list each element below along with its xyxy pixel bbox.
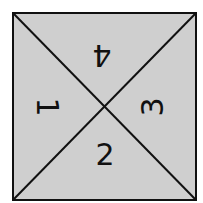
triangle-right-label: 3 — [138, 92, 168, 122]
triangle-top-label: 4 — [87, 40, 117, 70]
triangle-left-label: 1 — [32, 92, 62, 122]
triangle-bottom-label: 2 — [90, 140, 120, 170]
